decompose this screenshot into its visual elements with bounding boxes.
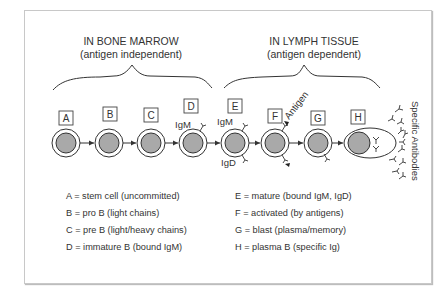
- d-igm-label: IgM: [175, 119, 191, 130]
- e-igm-label: IgM: [217, 116, 233, 127]
- stage-label-c: C: [144, 108, 158, 122]
- stage-label-d: D: [184, 99, 198, 113]
- b-cell-development-diagram: IN BONE MARROW (antigen independent) IN …: [0, 0, 442, 296]
- antigen-icon: [285, 163, 290, 167]
- bone-marrow-title: IN BONE MARROW: [83, 35, 178, 47]
- legend-item-h: H = plasma B (specific Ig): [235, 242, 340, 252]
- lymph-tissue-title: IN LYMPH TISSUE: [269, 35, 358, 47]
- lymph-tissue-brace: [224, 65, 380, 88]
- svg-text:A: A: [63, 113, 70, 124]
- receptor-icon: [324, 154, 330, 162]
- legend-item-b: B = pro B (light chains): [66, 208, 159, 218]
- receptor-icon: [200, 123, 206, 131]
- antigen-label: Antigen: [282, 89, 311, 121]
- receptor-icon: [242, 155, 248, 163]
- svg-text:B: B: [107, 109, 114, 120]
- cell-g-blast: [304, 129, 332, 157]
- cell-c-pre-b: [137, 129, 165, 157]
- cell-d-immature-b: [179, 129, 207, 157]
- legend-left: A = stem cell (uncommitted) B = pro B (l…: [66, 191, 187, 252]
- legend-item-e: E = mature (bound IgM, IgD): [235, 191, 352, 201]
- receptor-icon: [242, 123, 248, 131]
- svg-text:H: H: [354, 112, 361, 123]
- stage-label-f: F: [268, 109, 282, 123]
- receptor-icon: [282, 155, 288, 163]
- bone-marrow-subtitle: (antigen independent): [80, 48, 182, 60]
- specific-antibodies-label: Specific Antibodies: [410, 101, 421, 181]
- cell-f-activated: [261, 129, 289, 157]
- bone-marrow-brace: [53, 65, 212, 90]
- legend-item-a: A = stem cell (uncommitted): [66, 191, 180, 201]
- svg-text:F: F: [272, 111, 278, 122]
- legend-item-f: F = activated (by antigens): [235, 208, 344, 218]
- stage-label-g: G: [311, 111, 325, 125]
- cell-e-mature: [221, 129, 249, 157]
- svg-text:G: G: [314, 113, 322, 124]
- lymph-tissue-subtitle: (antigen dependent): [267, 48, 361, 60]
- e-igd-label: IgD: [221, 157, 236, 168]
- stage-label-b: B: [103, 107, 117, 121]
- stage-label-e: E: [228, 99, 242, 113]
- stage-label-h: H: [351, 110, 365, 124]
- legend-item-c: C = pre B (light/heavy chains): [66, 225, 187, 235]
- svg-text:D: D: [187, 101, 194, 112]
- svg-text:C: C: [147, 110, 154, 121]
- legend-right: E = mature (bound IgM, IgD) F = activate…: [235, 191, 352, 252]
- svg-text:E: E: [232, 101, 239, 112]
- stage-label-a: A: [59, 111, 73, 125]
- legend-item-d: D = immature B (bound IgM): [66, 242, 182, 252]
- legend-item-g: G = blast (plasma/memory): [235, 225, 346, 235]
- cell-a-stem-cell: [52, 129, 80, 157]
- cell-b-pro-b: [95, 129, 123, 157]
- cell-h-plasma-b: [344, 128, 396, 158]
